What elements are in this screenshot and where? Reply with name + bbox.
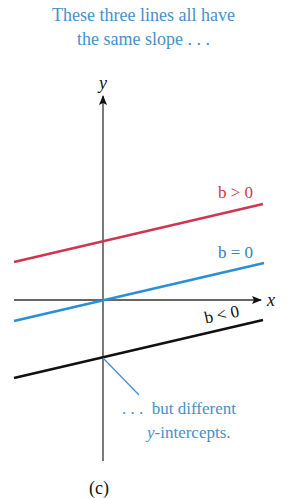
figure-label: (c) bbox=[89, 478, 109, 498]
label-b-zero: b = 0 bbox=[218, 243, 253, 262]
y-axis-label: y bbox=[97, 73, 107, 93]
annotation-y-italic: y bbox=[145, 423, 155, 442]
annotation-line-2: y-intercepts. bbox=[145, 423, 231, 442]
annotation-pointer bbox=[103, 358, 139, 395]
x-axis-label: x bbox=[266, 290, 275, 310]
label-b-negative: b < 0 bbox=[203, 302, 241, 328]
label-b-positive: b > 0 bbox=[218, 183, 253, 202]
diagram: x y b > 0 b = 0 b < 0 . . . but differen… bbox=[0, 0, 287, 498]
annotation-rest: -intercepts. bbox=[155, 423, 231, 442]
line-b-negative bbox=[14, 320, 263, 378]
annotation-line-1: . . . but different bbox=[122, 399, 236, 418]
